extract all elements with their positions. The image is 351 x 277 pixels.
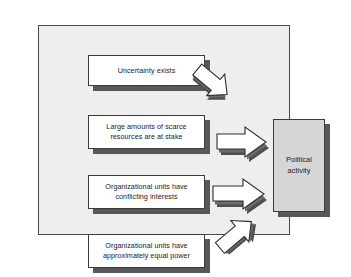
box-face: Organizational units have conflicting in… (88, 175, 205, 209)
box-face: Organizational units have approximately … (88, 234, 205, 268)
cause-box-equal-power: Organizational units have approximately … (88, 234, 205, 268)
cause-label-conflicting-interests: Organizational units have conflicting in… (100, 182, 192, 202)
arrow-resources-to-political-activity (215, 126, 277, 162)
box-face: Large amounts of scarce resources are at… (88, 115, 205, 149)
cause-label-resources: Large amounts of scarce resources are at… (101, 122, 191, 142)
arrow-equal-power-to-political-activity (205, 204, 281, 266)
effect-label-political-activity: Political activity (281, 155, 317, 176)
cause-box-resources: Large amounts of scarce resources are at… (88, 115, 205, 149)
diagram-frame: Uncertainty exists Large amounts of scar… (38, 25, 290, 235)
cause-label-uncertainty: Uncertainty exists (113, 66, 181, 76)
effect-box-political-activity: Political activity (273, 119, 325, 212)
cause-box-conflicting-interests: Organizational units have conflicting in… (88, 175, 205, 209)
cause-label-equal-power: Organizational units have approximately … (98, 241, 195, 261)
arrow-uncertainty-to-political-activity (176, 50, 254, 116)
figure-canvas: Uncertainty exists Large amounts of scar… (0, 0, 351, 277)
box-face: Political activity (273, 119, 325, 212)
